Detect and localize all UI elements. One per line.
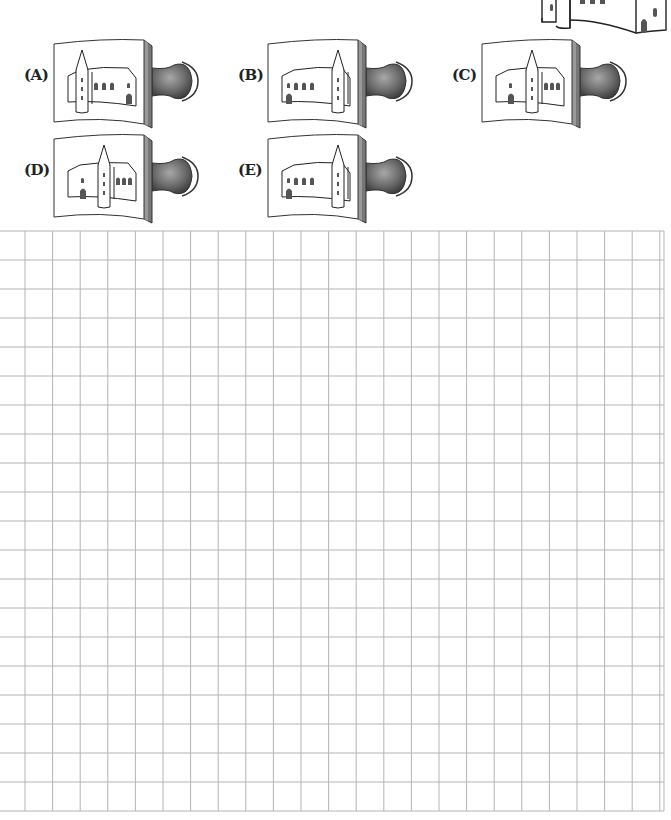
castle-reference-icon [528,0,671,38]
stamp-handle-icon [152,62,198,101]
stamp-option-a[interactable] [52,38,202,130]
stamp-handle-icon [152,157,198,196]
stamp-option-b[interactable] [266,38,416,130]
stamp-option-c[interactable] [480,38,630,130]
stamp-handle-icon [366,157,412,196]
option-label-b: (B) [238,66,263,84]
stamp-option-e[interactable] [266,133,416,225]
option-label-c: (C) [452,66,477,84]
stamp-handle-icon [366,62,412,101]
stamp-option-d[interactable] [52,133,202,225]
stamp-handle-icon [580,62,626,101]
option-label-a: (A) [24,66,48,84]
option-label-e: (E) [238,161,262,179]
option-label-d: (D) [24,161,50,179]
